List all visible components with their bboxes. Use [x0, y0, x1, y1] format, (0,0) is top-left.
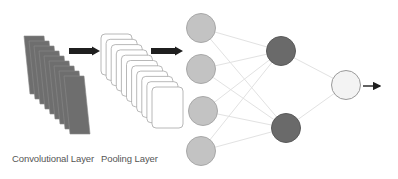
input-node: [189, 97, 218, 126]
pooled-map-card: [152, 87, 183, 128]
pool-to-fc-arrow-icon: [151, 47, 183, 56]
conv-to-pool-arrow-icon: [69, 47, 100, 56]
convolutional-layer-label: Convolutional Layer: [12, 153, 94, 164]
input-node: [187, 137, 216, 166]
fc-nodes: [187, 14, 361, 166]
hidden-node: [267, 37, 296, 66]
hidden-node: [272, 114, 301, 143]
output-node: [332, 71, 361, 100]
input-node: [187, 14, 216, 43]
input-node: [187, 55, 216, 84]
pooling-layer-label: Pooling Layer: [101, 153, 158, 164]
